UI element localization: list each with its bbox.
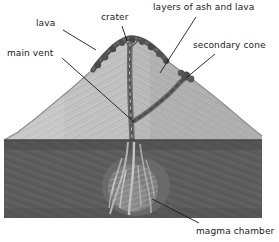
volcano-diagram: lava crater layers of ash and lava main …: [0, 0, 279, 242]
secondary-leader: [186, 54, 215, 78]
label-layers-of-ash-and-lava: layers of ash and lava: [153, 2, 254, 12]
underground-block: [4, 140, 262, 218]
lava-leader: [63, 30, 96, 50]
label-main-vent: main vent: [7, 48, 53, 58]
main-vent-channel: [130, 44, 132, 142]
label-lava: lava: [36, 18, 55, 28]
label-magma-chamber: magma chamber: [196, 226, 274, 236]
label-crater: crater: [101, 12, 129, 22]
label-secondary-cone: secondary cone: [193, 40, 266, 50]
volcano-illustration: [0, 0, 279, 242]
ash-layers-leader: [160, 17, 196, 73]
